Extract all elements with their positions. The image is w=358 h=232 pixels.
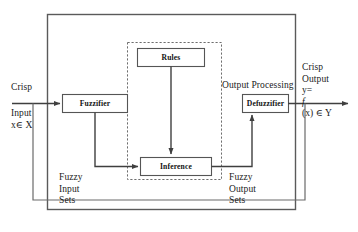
- output-processing-label: Output Processing: [222, 80, 294, 92]
- crisp-input-line2: Input: [11, 108, 32, 120]
- fuzzy-output-sets-line2: Output: [229, 184, 256, 196]
- fuzzy-input-sets-line3: Sets: [59, 195, 83, 207]
- crisp-output-line2: Output: [302, 74, 332, 86]
- inference-to-defuzzifier-arrow: [212, 115, 253, 167]
- fuzzy-output-sets-label: Fuzzy Output Sets: [229, 172, 256, 207]
- fuzzy-output-sets-line3: Sets: [229, 195, 256, 207]
- fuzzifier-label: Fuzzifier: [62, 99, 128, 108]
- crisp-input-line1: Crisp: [11, 82, 32, 94]
- fuzzifier-to-inference-arrow: [95, 113, 138, 167]
- crisp-output-prefix: y=: [302, 85, 332, 97]
- inference-label: Inference: [140, 162, 212, 171]
- defuzzifier-label: Defuzzifier: [242, 99, 289, 108]
- crisp-input-line3: x∈ X: [11, 120, 32, 132]
- crisp-input-label: Crisp: [11, 82, 32, 94]
- crisp-output-suffix: (x) ∈ Y: [302, 108, 332, 120]
- fuzzy-output-sets-line1: Fuzzy: [229, 172, 256, 184]
- fuzzy-input-sets-line1: Fuzzy: [59, 172, 83, 184]
- crisp-output-line3: y=f(x) ∈ Y: [302, 85, 332, 120]
- fuzzy-input-sets-line2: Input: [59, 184, 83, 196]
- crisp-output-function-symbol: f: [302, 97, 332, 109]
- fuzzy-input-sets-label: Fuzzy Input Sets: [59, 172, 83, 207]
- rules-label: Rules: [137, 53, 205, 62]
- diagram-canvas: Fuzzifier Rules Inference Defuzzifier Ou…: [0, 0, 358, 232]
- crisp-output-label: Crisp Output y=f(x) ∈ Y: [302, 62, 332, 120]
- crisp-input-sublabel: Input x∈ X: [11, 108, 32, 131]
- crisp-output-line1: Crisp: [302, 62, 332, 74]
